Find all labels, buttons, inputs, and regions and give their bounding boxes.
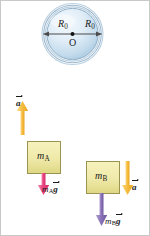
block-a-mass-label: mA: [37, 151, 50, 163]
block-a-weight-label: mAg: [42, 185, 58, 195]
a-vector-a: a: [16, 99, 21, 108]
block-b-mass-label: mB: [95, 171, 107, 183]
block-b-weight-label: mBg: [105, 217, 121, 227]
block-a-acceleration-label: a: [16, 99, 21, 108]
a-vector-b: a: [132, 183, 137, 192]
block-b-acceleration-label: a: [132, 183, 137, 192]
pulley-radius-label-left: R0: [58, 19, 68, 31]
pulley-center-label: O: [69, 38, 76, 48]
pulley-radius-label-right: R0: [85, 19, 95, 31]
g-vector-b: g: [116, 217, 121, 226]
pulley-center-dot: [71, 32, 75, 36]
g-vector-a: g: [53, 185, 58, 194]
atwood-machine-figure: R0 R0 O mA mB mAg mBg a a: [0, 0, 150, 236]
